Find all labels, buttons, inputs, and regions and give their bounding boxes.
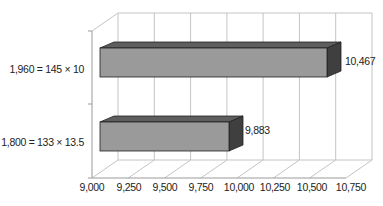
- bar-1800: [100, 116, 243, 151]
- data-label-1960: 10,467: [345, 55, 375, 67]
- x-tick-label: 9,000: [80, 181, 105, 193]
- bar-1800-side: [229, 116, 243, 151]
- x-tick-label: 10,250: [260, 181, 290, 193]
- bar-1800-front: [100, 122, 229, 151]
- bar-1960-front: [100, 48, 327, 77]
- x-tick-label: 9,250: [117, 181, 142, 193]
- x-tick-label: 10,500: [297, 181, 327, 193]
- data-label-1800: 9,883: [245, 124, 270, 136]
- gridlines: [92, 13, 372, 178]
- x-tick-label: 9,750: [189, 181, 214, 193]
- chart-plot-area: [0, 0, 383, 206]
- x-tick-label: 10,000: [224, 181, 254, 193]
- bar-1960-top: [100, 42, 341, 48]
- x-tick-label: 10,750: [336, 181, 366, 193]
- bar-1960: [100, 42, 341, 77]
- category-label-1800: 1,800 = 133 × 13.5: [0, 136, 84, 148]
- x-tick-label: 9,500: [153, 181, 178, 193]
- bar-1960-side: [327, 42, 341, 77]
- chart: 1,960 = 145 × 10 1,800 = 133 × 13.5 10,4…: [0, 0, 383, 206]
- category-label-1960: 1,960 = 145 × 10: [0, 63, 84, 75]
- bar-1800-top: [100, 116, 243, 122]
